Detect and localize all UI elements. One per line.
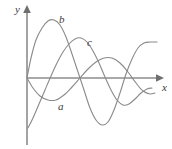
y-axis-label: y xyxy=(15,4,20,15)
curve-label-b: b xyxy=(59,14,65,25)
graph-figure: y x a b c xyxy=(0,0,172,149)
curve-c xyxy=(28,38,152,128)
y-axis-arrowhead xyxy=(23,5,31,13)
curve-b xyxy=(27,20,157,125)
curve-label-a: a xyxy=(58,101,64,112)
curve-label-c: c xyxy=(87,37,92,48)
plot-canvas xyxy=(0,0,172,149)
curves-group xyxy=(27,20,157,128)
x-axis-label: x xyxy=(162,82,167,93)
axes-group xyxy=(23,5,164,145)
curve-a xyxy=(27,57,155,100)
